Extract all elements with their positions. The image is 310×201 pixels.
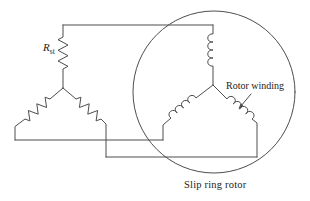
- resistor-symbol-subscript: st: [50, 47, 55, 56]
- rotor-winding-top: [208, 25, 213, 85]
- diagram-linework: [15, 11, 295, 173]
- circuit-diagram-canvas: [0, 0, 310, 201]
- resistor-symbol-letter: R: [43, 41, 50, 53]
- starting-resistor-top: [58, 25, 68, 88]
- slip-ring-rotor-circle: [133, 11, 295, 173]
- starting-resistor-right: [63, 88, 106, 157]
- rotor-winding-arrow-line: [242, 94, 251, 105]
- rotor-winding-label: Rotor winding: [226, 80, 284, 91]
- rotor-winding-left: [163, 85, 213, 140]
- starting-resistor-label: Rst: [43, 41, 55, 53]
- starting-resistor-left: [15, 88, 63, 140]
- rotor-winding-right: [213, 85, 257, 157]
- slip-ring-rotor-label: Slip ring rotor: [184, 179, 247, 191]
- circuit-figure: Rst Rotor winding Slip ring rotor: [0, 0, 310, 201]
